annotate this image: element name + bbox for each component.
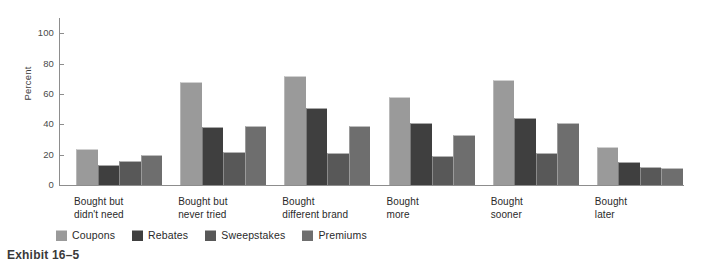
y-axis-tick-text: 0 <box>49 180 54 190</box>
bar-rebates-5 <box>514 118 536 185</box>
bar-coupons-1 <box>76 149 98 185</box>
y-axis-tick-label-100: 100 <box>0 28 54 38</box>
x-axis-category-label-4: Bought more <box>387 196 499 221</box>
bar-rebates-3 <box>306 108 328 185</box>
chart-legend: CouponsRebatesSweepstakesPremiums <box>0 227 709 243</box>
bar-chart-plot-area: Percent 020406080100 Bought but didn't n… <box>0 0 709 200</box>
bar-rebates-6 <box>618 162 640 185</box>
exhibit-figure: Percent 020406080100 Bought but didn't n… <box>0 0 709 269</box>
y-axis-tick-text: 60 <box>43 89 54 99</box>
bar-premiums-6 <box>661 168 683 185</box>
bar-coupons-2 <box>180 82 202 185</box>
y-axis-tick-label-60: 60 <box>0 89 54 99</box>
bar-sweepstakes-4 <box>432 156 454 185</box>
bar-series-layer <box>59 18 684 185</box>
bar-premiums-4 <box>453 135 475 185</box>
y-axis-tick-label-40: 40 <box>0 119 54 129</box>
legend-label: Sweepstakes <box>221 229 285 241</box>
y-axis-tick-text: 40 <box>43 119 54 129</box>
legend-swatch-premiums <box>302 230 313 241</box>
x-axis-line <box>59 185 684 186</box>
x-axis-category-label-3: Bought different brand <box>282 196 394 221</box>
bar-sweepstakes-3 <box>327 153 349 185</box>
x-axis-category-label-5: Bought sooner <box>491 196 603 221</box>
legend-item-premiums: Premiums <box>302 229 366 241</box>
y-axis-tick-text: 100 <box>38 28 54 38</box>
legend-label: Coupons <box>72 229 115 241</box>
bar-coupons-6 <box>597 147 619 185</box>
bar-premiums-3 <box>349 126 371 185</box>
bar-premiums-1 <box>141 155 163 185</box>
bar-rebates-1 <box>98 165 120 185</box>
bar-sweepstakes-2 <box>223 152 245 185</box>
x-axis-category-label-2: Bought but never tried <box>178 196 290 221</box>
bar-sweepstakes-1 <box>119 161 141 185</box>
bar-sweepstakes-6 <box>640 167 662 185</box>
bar-sweepstakes-5 <box>536 153 558 185</box>
bar-rebates-4 <box>410 123 432 185</box>
legend-item-coupons: Coupons <box>56 229 115 241</box>
y-axis-tick-label-0: 0 <box>0 180 54 190</box>
legend-label: Rebates <box>148 229 188 241</box>
x-axis-category-label-6: Bought later <box>595 196 707 221</box>
legend-item-sweepstakes: Sweepstakes <box>205 229 285 241</box>
legend-swatch-rebates <box>132 230 143 241</box>
bar-premiums-5 <box>557 123 579 185</box>
legend-swatch-coupons <box>56 230 67 241</box>
legend-label: Premiums <box>318 229 366 241</box>
y-axis-tick-label-80: 80 <box>0 59 54 69</box>
bar-coupons-3 <box>284 76 306 185</box>
y-axis-tick-text: 80 <box>43 59 54 69</box>
y-axis-tick-label-20: 20 <box>0 150 54 160</box>
bar-premiums-2 <box>245 126 267 185</box>
bar-rebates-2 <box>202 127 224 185</box>
exhibit-caption: Exhibit 16–5 <box>7 248 79 262</box>
legend-swatch-sweepstakes <box>205 230 216 241</box>
y-axis-tick-text: 20 <box>43 150 54 160</box>
bar-coupons-4 <box>389 97 411 185</box>
bar-coupons-5 <box>493 80 515 185</box>
legend-item-rebates: Rebates <box>132 229 188 241</box>
x-axis-category-label-1: Bought but didn't need <box>74 196 186 221</box>
